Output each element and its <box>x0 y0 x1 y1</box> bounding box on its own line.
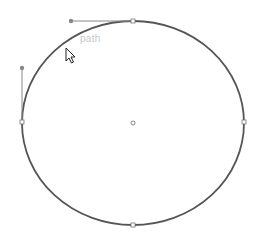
anchor-point-right[interactable] <box>242 120 246 124</box>
drawing-canvas[interactable]: path <box>0 0 258 238</box>
arrow-pointer-icon <box>66 48 75 63</box>
path-hint-label: path <box>80 33 101 44</box>
anchor-point-left[interactable] <box>20 120 24 124</box>
handle-point-top[interactable] <box>69 19 73 23</box>
handle-point-left[interactable] <box>20 66 24 70</box>
anchor-point-bottom[interactable] <box>131 223 135 227</box>
center-point[interactable] <box>131 121 135 125</box>
anchor-point-top[interactable] <box>131 19 135 23</box>
